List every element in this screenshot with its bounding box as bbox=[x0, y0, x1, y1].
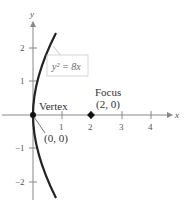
vertex-leader-line bbox=[34, 117, 45, 133]
vertex-point bbox=[30, 112, 36, 118]
equation-label: y² = 8x bbox=[51, 61, 81, 72]
focus-label: Focus bbox=[95, 86, 121, 98]
x-tick-label-2: 2 bbox=[88, 122, 93, 132]
y-tick-label-2: 2 bbox=[20, 43, 25, 53]
y-axis-label: y bbox=[29, 9, 34, 19]
focus-point bbox=[87, 111, 95, 119]
x-tick-label-1: 1 bbox=[59, 122, 64, 132]
x-axis-label: x bbox=[174, 110, 179, 120]
y-tick-label-neg2: −2 bbox=[15, 177, 25, 187]
vertex-label: Vertex bbox=[39, 100, 68, 112]
x-tick-label-4: 4 bbox=[148, 122, 153, 132]
parabola-chart: x y 1 2 3 4 2 1 −1 −2 y² = 8x Vertex (0,… bbox=[0, 0, 192, 210]
vertex-coord-label: (0, 0) bbox=[44, 132, 68, 145]
focus-coord-label: (2, 0) bbox=[96, 98, 120, 111]
y-tick-label-neg1: −1 bbox=[15, 143, 25, 153]
x-tick-label-3: 3 bbox=[119, 122, 124, 132]
y-tick-label-1: 1 bbox=[20, 76, 25, 86]
